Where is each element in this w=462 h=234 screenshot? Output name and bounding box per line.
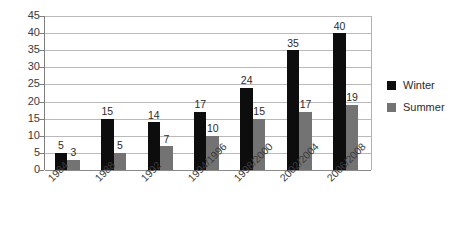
y-axis-tick-label: 40 [12, 27, 40, 38]
bar-value-label: 19 [340, 92, 365, 103]
bar-value-label: 7 [154, 134, 179, 145]
bar-value-label: 24 [234, 75, 259, 86]
legend: WinterSummer [387, 74, 445, 118]
y-axis-tick-mark [38, 50, 44, 51]
bar-group: 155 [91, 16, 137, 170]
legend-item-winter[interactable]: Winter [387, 74, 445, 96]
y-axis-tick-mark [38, 119, 44, 120]
bar-value-label: 17 [188, 99, 213, 110]
legend-swatch-icon [387, 103, 396, 112]
bar-value-label: 10 [200, 123, 225, 134]
y-axis-tick-label: 35 [12, 44, 40, 55]
bar-value-label: 40 [327, 21, 352, 32]
y-axis-tick-label: 0 [12, 164, 40, 175]
bar-value-label: 3 [61, 147, 86, 158]
bar-group: 147 [138, 16, 184, 170]
y-axis-tick-label: 30 [12, 61, 40, 72]
y-axis-tick-mark [38, 136, 44, 137]
bar-value-label: 17 [293, 99, 318, 110]
gridline [45, 170, 371, 171]
y-axis-tick-label: 5 [12, 147, 40, 158]
bar-value-label: 14 [142, 110, 167, 121]
legend-label: Summer [403, 102, 445, 113]
y-axis-tick-mark [38, 170, 44, 171]
bar-chart: 051015202530354045 531551471710241535174… [0, 0, 462, 234]
y-axis-tick-label: 20 [12, 96, 40, 107]
y-axis-tick-mark [38, 102, 44, 103]
bar-group: 53 [45, 16, 91, 170]
bar-value-label: 15 [247, 106, 272, 117]
y-axis-tick-mark [38, 153, 44, 154]
y-axis-tick-mark [38, 33, 44, 34]
y-axis-tick-mark [38, 84, 44, 85]
legend-swatch-icon [387, 81, 396, 90]
bar-value-label: 5 [108, 140, 133, 151]
bar-value-label: 35 [281, 38, 306, 49]
y-axis-tick-label: 25 [12, 78, 40, 89]
y-axis-tick-mark [38, 67, 44, 68]
y-axis-tick-label: 15 [12, 113, 40, 124]
bar-winter-2002-2004 [287, 50, 300, 170]
legend-item-summer[interactable]: Summer [387, 96, 445, 118]
y-axis-tick-mark [38, 16, 44, 17]
bars-layer: 531551471710241535174019 [45, 16, 370, 170]
y-axis-tick-label: 10 [12, 130, 40, 141]
legend-label: Winter [403, 80, 435, 91]
y-axis-tick-label: 45 [12, 10, 40, 21]
bar-value-label: 15 [95, 106, 120, 117]
